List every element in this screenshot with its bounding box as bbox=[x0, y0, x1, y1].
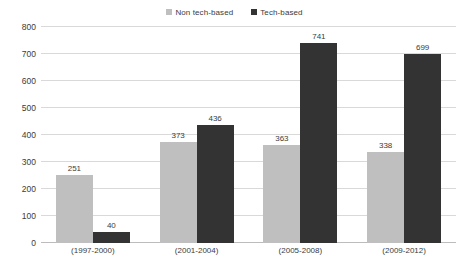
bar-non-tech-based[interactable]: 251 bbox=[56, 27, 93, 243]
bar-non-tech-based[interactable]: 363 bbox=[263, 27, 300, 243]
legend-item-tech-based: Tech-based bbox=[251, 8, 302, 17]
bar-non-tech-based[interactable]: 338 bbox=[367, 27, 404, 243]
bar-rect[interactable] bbox=[93, 232, 130, 243]
bar-value-label: 338 bbox=[367, 142, 404, 150]
y-axis-tick-label: 500 bbox=[0, 103, 36, 113]
bar-group: 338699 bbox=[352, 27, 456, 243]
bar-pair: 363741 bbox=[263, 27, 337, 243]
bar-rect[interactable] bbox=[367, 152, 404, 243]
y-axis-tick-label: 300 bbox=[0, 157, 36, 167]
bar-tech-based[interactable]: 40 bbox=[93, 27, 130, 243]
bar-rect[interactable] bbox=[160, 142, 197, 243]
y-axis-tick-label: 700 bbox=[0, 49, 36, 59]
y-axis-tick-label: 200 bbox=[0, 184, 36, 194]
chart-legend: Non tech-based Tech-based bbox=[0, 4, 469, 20]
bar-pair: 373436 bbox=[160, 27, 234, 243]
y-axis: 0100200300400500600700800 bbox=[0, 27, 36, 243]
bar-pair: 338699 bbox=[367, 27, 441, 243]
y-axis-tick-label: 800 bbox=[0, 22, 36, 32]
bar-value-label: 40 bbox=[93, 222, 130, 230]
bar-rect[interactable] bbox=[56, 175, 93, 243]
legend-label-non-tech-based: Non tech-based bbox=[175, 8, 233, 17]
bar-value-label: 436 bbox=[197, 115, 234, 123]
bar-group: 25140 bbox=[41, 27, 145, 243]
x-axis-tick-label: (2001-2004) bbox=[145, 246, 249, 255]
bar-rect[interactable] bbox=[404, 54, 441, 243]
bar-tech-based[interactable]: 436 bbox=[197, 27, 234, 243]
y-axis-tick-label: 0 bbox=[0, 238, 36, 248]
bar-rect[interactable] bbox=[300, 43, 337, 243]
bar-tech-based[interactable]: 741 bbox=[300, 27, 337, 243]
legend-swatch-icon bbox=[251, 9, 257, 15]
bar-value-label: 363 bbox=[263, 135, 300, 143]
bar-group: 373436 bbox=[145, 27, 249, 243]
legend-label-tech-based: Tech-based bbox=[260, 8, 302, 17]
bar-non-tech-based[interactable]: 373 bbox=[160, 27, 197, 243]
bar-group: 363741 bbox=[249, 27, 353, 243]
bar-pair: 25140 bbox=[56, 27, 130, 243]
bar-rect[interactable] bbox=[263, 145, 300, 243]
x-axis-tick-label: (1997-2000) bbox=[41, 246, 145, 255]
bar-value-label: 373 bbox=[160, 132, 197, 140]
x-axis-tick-label: (2005-2008) bbox=[249, 246, 353, 255]
legend-item-non-tech-based: Non tech-based bbox=[166, 8, 233, 17]
y-axis-tick-label: 400 bbox=[0, 130, 36, 140]
legend-swatch-icon bbox=[166, 9, 172, 15]
bar-tech-based[interactable]: 699 bbox=[404, 27, 441, 243]
bar-chart: Non tech-based Tech-based 01002003004005… bbox=[0, 0, 469, 268]
bar-value-label: 251 bbox=[56, 165, 93, 173]
y-axis-tick-label: 600 bbox=[0, 76, 36, 86]
bar-rect[interactable] bbox=[197, 125, 234, 243]
bar-value-label: 699 bbox=[404, 44, 441, 52]
bars-layer: 25140373436363741338699 bbox=[41, 27, 456, 243]
x-axis: (1997-2000)(2001-2004)(2005-2008)(2009-2… bbox=[41, 246, 456, 255]
y-axis-tick-label: 100 bbox=[0, 211, 36, 221]
x-axis-tick-label: (2009-2012) bbox=[352, 246, 456, 255]
bar-value-label: 741 bbox=[300, 33, 337, 41]
